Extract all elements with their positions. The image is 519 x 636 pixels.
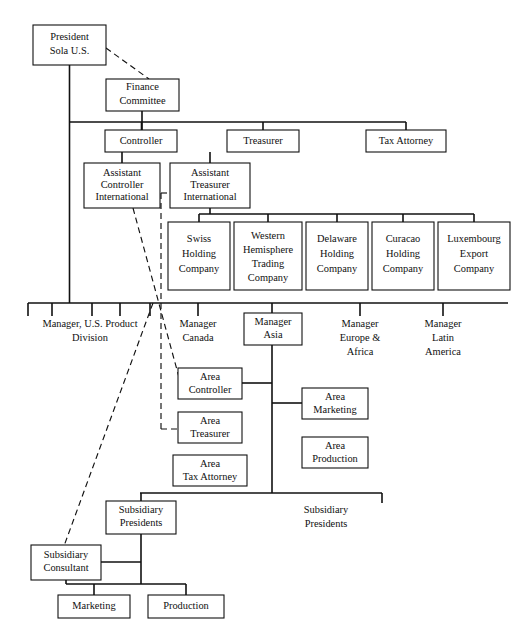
node-assistant-controller-line-3: International bbox=[95, 191, 148, 202]
node-subsidiary-presidents-line-2: Presidents bbox=[120, 517, 163, 528]
label-manager-europe-africa: Manager Europe & Africa bbox=[340, 318, 381, 357]
node-swiss-line-2: Holding bbox=[182, 248, 216, 259]
label-manager-canada: Manager Canada bbox=[180, 318, 217, 343]
node-swiss-holding-company[interactable]: Swiss Holding Company bbox=[168, 222, 230, 290]
node-area-treasurer-line-1: Area bbox=[200, 415, 221, 426]
node-production-label: Production bbox=[163, 600, 209, 611]
node-president-line-2: Sola U.S. bbox=[50, 45, 90, 56]
label-manager-us-product-division: Manager, U.S. Product Division bbox=[42, 318, 137, 343]
node-production[interactable]: Production bbox=[148, 595, 224, 618]
node-subsidiary-presidents-line-1: Subsidiary bbox=[119, 504, 164, 515]
node-manager-asia-line-1: Manager bbox=[255, 316, 292, 327]
node-curacao-holding-company[interactable]: Curacao Holding Company bbox=[372, 222, 434, 290]
node-controller[interactable]: Controller bbox=[105, 130, 177, 152]
node-marketing[interactable]: Marketing bbox=[58, 595, 130, 618]
node-area-treasurer-line-2: Treasurer bbox=[190, 428, 230, 439]
node-manager-asia[interactable]: Manager Asia bbox=[244, 313, 302, 345]
free-label-layer: Manager, U.S. Product Division Manager C… bbox=[42, 318, 462, 529]
node-subsidiary-consultant-line-2: Consultant bbox=[43, 562, 88, 573]
node-western-line-1: Western bbox=[251, 230, 286, 241]
node-area-marketing[interactable]: Area Marketing bbox=[302, 388, 368, 419]
node-curacao-line-3: Company bbox=[383, 263, 424, 274]
node-area-marketing-line-1: Area bbox=[325, 391, 346, 402]
node-curacao-line-2: Holding bbox=[386, 248, 420, 259]
org-chart-root: President Sola U.S. Finance Committee Co… bbox=[0, 0, 519, 636]
node-swiss-line-3: Company bbox=[179, 263, 220, 274]
node-treasurer[interactable]: Treasurer bbox=[227, 130, 299, 152]
node-assistant-treasurer-line-1: Assistant bbox=[191, 167, 229, 178]
node-marketing-label: Marketing bbox=[72, 600, 115, 611]
node-area-production-line-2: Production bbox=[312, 453, 358, 464]
label-manager-europe-africa-line-3: Africa bbox=[347, 346, 374, 357]
node-western-hemisphere-trading-company[interactable]: Western Hemisphere Trading Company bbox=[234, 222, 302, 290]
node-area-controller[interactable]: Area Controller bbox=[178, 368, 242, 399]
node-assistant-controller-line-1: Assistant bbox=[103, 167, 141, 178]
label-manager-canada-line-2: Canada bbox=[182, 332, 214, 343]
node-finance-committee-line-1: Finance bbox=[126, 81, 159, 92]
label-subsidiary-presidents-right: Subsidiary Presidents bbox=[304, 504, 349, 529]
node-luxembourg-line-1: Luxembourg bbox=[447, 233, 501, 244]
node-finance-committee-line-2: Committee bbox=[119, 95, 166, 106]
node-swiss-line-1: Swiss bbox=[187, 233, 211, 244]
node-manager-asia-line-2: Asia bbox=[263, 329, 282, 340]
node-assistant-treasurer-line-2: Treasurer bbox=[190, 179, 230, 190]
node-assistant-controller-international[interactable]: Assistant Controller International bbox=[84, 163, 160, 208]
dashed-president-to-finance-committee bbox=[106, 48, 149, 79]
node-controller-label: Controller bbox=[120, 135, 163, 146]
node-area-tax-attorney-line-2: Tax Attorney bbox=[183, 471, 238, 482]
node-area-controller-line-1: Area bbox=[200, 371, 221, 382]
label-manager-latin-america-line-2: Latin bbox=[432, 332, 455, 343]
node-subsidiary-consultant-line-1: Subsidiary bbox=[44, 549, 89, 560]
node-president-line-1: President bbox=[50, 31, 89, 42]
node-luxembourg-line-2: Export bbox=[460, 248, 488, 259]
node-curacao-line-1: Curacao bbox=[386, 233, 421, 244]
label-manager-europe-africa-line-2: Europe & bbox=[340, 332, 381, 343]
label-manager-latin-america-line-1: Manager bbox=[425, 318, 462, 329]
node-subsidiary-presidents[interactable]: Subsidiary Presidents bbox=[106, 501, 176, 534]
node-treasurer-label: Treasurer bbox=[243, 135, 283, 146]
node-area-controller-line-2: Controller bbox=[189, 384, 232, 395]
node-tax-attorney-hq-label: Tax Attorney bbox=[379, 135, 434, 146]
label-subsidiary-presidents-right-line-2: Presidents bbox=[305, 518, 348, 529]
node-western-line-3: Trading bbox=[252, 258, 285, 269]
node-delaware-line-2: Holding bbox=[320, 248, 354, 259]
node-delaware-line-3: Company bbox=[317, 263, 358, 274]
node-assistant-treasurer-line-3: International bbox=[183, 191, 236, 202]
node-tax-attorney-hq[interactable]: Tax Attorney bbox=[366, 130, 446, 152]
node-luxembourg-line-3: Company bbox=[454, 263, 495, 274]
org-chart-canvas: President Sola U.S. Finance Committee Co… bbox=[0, 0, 519, 636]
node-luxembourg-export-company[interactable]: Luxembourg Export Company bbox=[438, 222, 510, 290]
node-area-treasurer[interactable]: Area Treasurer bbox=[178, 412, 242, 443]
label-manager-europe-africa-line-1: Manager bbox=[342, 318, 379, 329]
node-area-tax-attorney[interactable]: Area Tax Attorney bbox=[173, 455, 247, 486]
label-manager-us-product-division-line-1: Manager, U.S. Product bbox=[42, 318, 137, 329]
node-delaware-holding-company[interactable]: Delaware Holding Company bbox=[306, 222, 368, 290]
node-western-line-4: Company bbox=[248, 272, 289, 283]
node-finance-committee[interactable]: Finance Committee bbox=[106, 79, 179, 111]
node-area-marketing-line-2: Marketing bbox=[313, 404, 356, 415]
label-subsidiary-presidents-right-line-1: Subsidiary bbox=[304, 504, 349, 515]
node-delaware-line-1: Delaware bbox=[317, 233, 357, 244]
node-area-production-line-1: Area bbox=[325, 440, 346, 451]
node-assistant-treasurer-international[interactable]: Assistant Treasurer International bbox=[170, 163, 250, 208]
node-subsidiary-consultant[interactable]: Subsidiary Consultant bbox=[31, 545, 101, 580]
label-manager-canada-line-1: Manager bbox=[180, 318, 217, 329]
label-manager-latin-america-line-3: America bbox=[425, 346, 461, 357]
node-western-line-2: Hemisphere bbox=[243, 244, 294, 255]
label-manager-us-product-division-line-2: Division bbox=[72, 332, 109, 343]
node-president[interactable]: President Sola U.S. bbox=[33, 25, 106, 65]
node-area-production[interactable]: Area Production bbox=[302, 437, 368, 468]
label-manager-latin-america: Manager Latin America bbox=[425, 318, 462, 357]
node-area-tax-attorney-line-1: Area bbox=[200, 458, 221, 469]
node-assistant-controller-line-2: Controller bbox=[101, 179, 144, 190]
